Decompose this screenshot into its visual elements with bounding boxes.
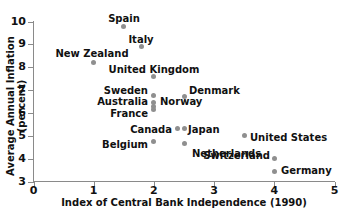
- data-point-label: Canada: [130, 124, 172, 135]
- data-point[interactable]: [182, 141, 187, 146]
- data-point-label: Sweden: [104, 85, 148, 96]
- y-tick: [28, 113, 34, 114]
- data-point-label: Germany: [281, 165, 332, 176]
- y-tick: [28, 22, 34, 23]
- data-point[interactable]: [182, 126, 187, 131]
- x-tick-label: 4: [264, 186, 284, 196]
- x-axis-line: [33, 181, 335, 182]
- data-point[interactable]: [121, 24, 126, 29]
- data-point-label: New Zealand: [55, 48, 128, 59]
- data-point[interactable]: [272, 156, 277, 161]
- data-point-label: Italy: [128, 34, 153, 45]
- y-tick: [28, 136, 34, 137]
- data-point-label: United Kingdom: [109, 64, 200, 75]
- data-point[interactable]: [91, 60, 96, 65]
- data-point[interactable]: [272, 169, 277, 174]
- data-point-label: Switzerland: [203, 150, 270, 161]
- data-point[interactable]: [151, 93, 156, 98]
- data-point[interactable]: [242, 133, 247, 138]
- data-point[interactable]: [151, 139, 156, 144]
- data-point-label: Belgium: [102, 139, 148, 150]
- y-tick: [28, 90, 34, 91]
- x-tick-label: 1: [84, 186, 104, 196]
- y-tick: [28, 159, 34, 160]
- x-tick-label: 2: [144, 186, 164, 196]
- data-point-label: Spain: [108, 13, 140, 24]
- data-point-label: United States: [250, 132, 327, 143]
- data-point[interactable]: [175, 126, 180, 131]
- data-point[interactable]: [151, 107, 156, 112]
- data-point-label: Japan: [188, 124, 220, 135]
- x-tick-label: 5: [325, 186, 345, 196]
- data-point-label: Australia: [97, 96, 148, 107]
- y-tick: [28, 67, 34, 68]
- x-axis-title: Index of Central Bank Independence (1990…: [33, 197, 335, 208]
- data-point-label: France: [110, 108, 148, 119]
- y-axis-title: Average Annual Inflation (percent): [5, 21, 27, 191]
- scatter-chart: 345678910 012345 SpainItalyNew ZealandUn…: [0, 0, 348, 216]
- data-point-label: Denmark: [189, 85, 240, 96]
- x-tick-label: 3: [204, 186, 224, 196]
- data-point-label: Norway: [160, 96, 202, 107]
- y-tick: [28, 44, 34, 45]
